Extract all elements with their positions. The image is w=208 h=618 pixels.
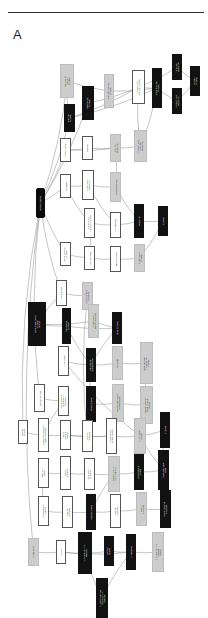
go-term-node[interactable]: response to stress [86, 494, 96, 530]
go-term-label-line: transcription [64, 181, 66, 191]
go-term-node[interactable]: transcription [60, 174, 71, 198]
go-term-node[interactable]: DNA repair [160, 412, 170, 448]
go-term-node[interactable]: amino acid andderivativemetabolic [60, 64, 74, 98]
go-term-node[interactable]: DNA metabolicprocess [134, 418, 146, 454]
go-term-node[interactable]: DNA metabolic [58, 346, 69, 376]
go-term-label: response to stress [90, 505, 92, 519]
go-term-node[interactable]: cell proliferation [28, 538, 39, 566]
panel-label-a: A [13, 28, 22, 41]
go-term-node[interactable]: cellular biosynthetic [110, 172, 121, 202]
go-term-node[interactable]: amino acidmetabolic [64, 104, 75, 132]
go-term-node[interactable]: double-strand breakrepair [158, 450, 169, 490]
top-divider-rule [8, 12, 204, 13]
go-term-node[interactable]: biosynthetic [134, 204, 144, 238]
go-term-node[interactable]: amine metabolic [60, 138, 71, 162]
go-term-node[interactable]: cell cycle [56, 540, 66, 564]
go-term-node[interactable]: glutamine familyamino acidbiosynthetic [134, 130, 147, 162]
go-term-node[interactable]: cellular macromoleculemetabolicprocess [28, 302, 46, 346]
go-term-label: cellular amino acidmetabolic [155, 81, 159, 96]
go-term-label: glutamine familyamino acid metabolic [136, 79, 140, 95]
go-term-node[interactable]: proteolysis [112, 346, 123, 380]
go-term-label-line: cellular biosynthetic [114, 179, 116, 194]
go-term-node[interactable]: cellular responseto stimulus [38, 496, 49, 526]
go-term-node[interactable]: macromoleculemetabolic [134, 244, 145, 272]
go-term-node[interactable]: cellular nitrogencompound metabolic [84, 208, 95, 238]
go-term-label: chromosomeorganization [87, 469, 91, 479]
go-term-label: protein processing,modification andcatab… [143, 356, 149, 371]
go-term-node[interactable]: cellular proteinmetabolic [62, 308, 71, 344]
go-term-node[interactable]: cellular metabolic [84, 246, 95, 270]
go-term-node[interactable]: nitrogen compoundmetabolic [60, 242, 71, 266]
go-term-node[interactable]: gene expression [110, 212, 121, 238]
go-term-label-line: process [148, 397, 150, 412]
go-term-label-line: metabolic [88, 97, 90, 108]
go-term-label-line: cellular process [60, 287, 62, 299]
go-term-node[interactable]: cellular process [56, 280, 67, 306]
go-term-node[interactable]: cellular proteincatabolic process [86, 348, 96, 382]
go-term-label-line: metabolic [195, 77, 197, 85]
go-term-node[interactable]: organelleorganization [82, 420, 93, 452]
go-term-node[interactable]: biological_process [36, 188, 45, 218]
go-term-label-line: catabolic process [91, 358, 93, 372]
go-term-node[interactable]: amino acidbiosynthetic [172, 54, 182, 80]
go-term-node[interactable]: DNA-dependent DNAreplication [78, 532, 92, 574]
go-term-node[interactable]: response to DNAdamage stimulus [108, 456, 120, 492]
go-term-node[interactable]: metabolic [158, 206, 168, 236]
go-term-node[interactable]: cellular responseto stress [134, 454, 144, 490]
go-term-label-line: process [38, 315, 40, 333]
go-term-node[interactable]: glutaminemetabolic [190, 66, 200, 96]
go-term-node[interactable]: DNA-dependent DNAreplicationinitiation [152, 532, 164, 572]
go-term-node[interactable]: chromosomeorganization [84, 458, 95, 490]
go-dag-graph: biological_processamino acid andderivati… [0, 46, 208, 608]
go-term-node[interactable]: glutamine familyamino acid metabolic [132, 70, 145, 104]
go-term-node[interactable]: cellular amino acidmetabolic [152, 68, 162, 108]
go-term-node[interactable]: DNA replication [126, 534, 136, 570]
go-term-node[interactable]: macromoleculebiosynthetic [82, 170, 94, 200]
go-term-node[interactable]: carboxylic acidmetabolic [82, 86, 94, 120]
go-term-node[interactable]: biological regulation [34, 384, 45, 412]
go-term-node[interactable]: cellular componentorganization atcellula… [58, 386, 69, 416]
go-term-label: cell proliferation [32, 546, 34, 558]
go-term-node[interactable]: chromatinmodification [110, 494, 121, 528]
go-term-label-line: complex assembly [112, 429, 114, 443]
go-term-label-line: metabolic [157, 81, 159, 96]
go-term-node[interactable]: covalent chromatinmodification [160, 490, 171, 528]
go-term-label-line: protein catabolic [90, 398, 92, 411]
go-term-node[interactable]: response tostimulus [38, 458, 49, 488]
go-term-node[interactable]: glutamine familybiosynthetic [172, 88, 182, 114]
go-term-node[interactable]: nuclearorganization [60, 456, 71, 490]
go-term-node[interactable]: protein processing,modification andcatab… [140, 342, 153, 384]
go-term-label: transcription [64, 181, 66, 191]
go-term-node[interactable]: amino acid derivativemetabolic [104, 74, 114, 108]
go-term-node[interactable]: primary metabolic [110, 246, 121, 272]
go-term-label-line: organization [88, 431, 90, 441]
go-term-node[interactable]: protein metabolic [112, 312, 122, 344]
go-term-label: translation [86, 144, 88, 152]
go-term-label: biologicalprocess [21, 428, 25, 435]
go-term-node[interactable]: histonemodification [136, 492, 147, 526]
go-term-node[interactable]: protein catabolic [86, 386, 96, 422]
go-term-label: cellular biosynthetic [114, 179, 116, 194]
go-term-node[interactable]: cellular macromoleculecatabolic process [112, 384, 124, 422]
go-term-label: double-strand breakrepair [161, 462, 165, 478]
go-term-node[interactable]: macromoleculebiosynthetic process [88, 304, 99, 338]
go-term-label-line: process [23, 428, 25, 435]
go-term-label-line: cell proliferation [32, 546, 34, 558]
go-term-label: amine metabolic [64, 144, 66, 157]
go-term-node[interactable]: cell cycleprocess [104, 536, 114, 566]
go-term-label: DNA replication [130, 546, 132, 558]
go-term-label: amino acidmetabolic [67, 114, 71, 122]
go-term-node[interactable]: cellularcomponentassembly [60, 420, 71, 450]
go-term-label-line: DNA repair [164, 426, 166, 435]
go-term-node[interactable]: amine andbiosynthetic [110, 134, 121, 162]
go-term-label-line: biosynthetic [177, 62, 179, 71]
go-term-label-line: stimulus [44, 468, 46, 477]
go-term-node[interactable]: DNA strand elongationinvolved in DNArepl… [96, 578, 108, 618]
go-term-label: glutaminemetabolic [193, 77, 197, 85]
go-term-label-line: damage stimulus [114, 467, 116, 480]
go-term-node[interactable]: chromatinorganization [62, 496, 73, 528]
go-term-node[interactable]: biologicalprocess [18, 420, 28, 444]
go-term-node[interactable]: macromolecular complexsubunit organizati… [38, 418, 49, 452]
go-term-node[interactable]: macromolecularcomplex assembly [106, 418, 117, 454]
go-term-node[interactable]: translation [82, 136, 93, 160]
